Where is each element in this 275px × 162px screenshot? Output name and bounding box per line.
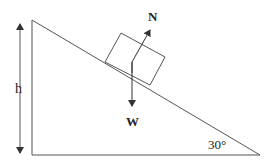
block xyxy=(105,33,165,85)
normal-force-arrow xyxy=(132,30,150,73)
normal-force-label: N xyxy=(148,9,158,24)
inclined-plane-diagram: h N W 30° xyxy=(0,0,275,162)
height-label: h xyxy=(15,81,22,96)
incline-triangle xyxy=(32,20,260,155)
angle-label: 30° xyxy=(208,137,226,152)
weight-label: W xyxy=(126,114,139,129)
